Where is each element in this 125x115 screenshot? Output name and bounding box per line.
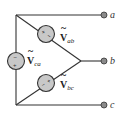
source-ca-minus: −: [14, 54, 18, 60]
voltage-source-bc: − + Vbc ~: [38, 69, 75, 92]
phasor-tilde-ca: ~: [28, 45, 34, 56]
terminal-a-label: a: [110, 9, 115, 20]
terminal-b-label: b: [110, 55, 115, 66]
terminal-a: a: [101, 9, 115, 20]
voltage-source-ab: + − Vab ~: [38, 22, 75, 45]
terminal-b-dot-icon: [101, 58, 107, 64]
terminal-c-dot-icon: [101, 102, 107, 108]
label-v-bc: Vbc: [60, 79, 75, 92]
delta-circuit-diagram: + − Vab ~ − + Vca ~ − + Vbc ~ a b: [0, 0, 125, 115]
label-v-ca: Vca: [27, 55, 41, 68]
source-ca-plus: +: [13, 62, 17, 68]
phasor-tilde-bc: ~: [61, 69, 67, 80]
terminal-a-dot-icon: [101, 12, 107, 18]
terminal-c: c: [101, 99, 115, 110]
label-v-ab: Vab: [60, 32, 75, 45]
terminal-c-label: c: [110, 99, 115, 110]
terminal-b: b: [101, 55, 115, 66]
voltage-source-ca: − + Vca ~: [8, 45, 42, 70]
phasor-tilde-ab: ~: [61, 22, 67, 33]
